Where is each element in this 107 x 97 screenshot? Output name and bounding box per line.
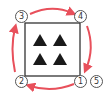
- arrow-top: [30, 9, 72, 14]
- arrow-bottom: [30, 84, 74, 89]
- arrow-left: [13, 28, 16, 72]
- arrow-right: [86, 26, 91, 69]
- label-1: 1: [74, 75, 87, 88]
- label-2: 2: [15, 75, 28, 88]
- label-3: 3: [15, 10, 28, 23]
- label-5: 5: [90, 75, 103, 88]
- square-frame: [25, 23, 80, 76]
- label-4: 4: [74, 10, 87, 23]
